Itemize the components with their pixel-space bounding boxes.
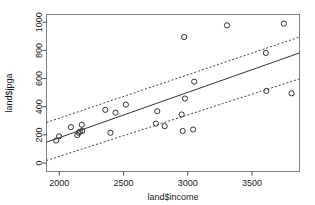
data-point xyxy=(224,23,229,28)
data-point xyxy=(192,79,197,84)
x-axis-tick-labels: 2000250030003500 xyxy=(49,178,262,188)
data-point xyxy=(113,110,118,115)
data-point xyxy=(191,127,196,132)
lower-confidence-band xyxy=(47,79,300,161)
x-tick-label: 3000 xyxy=(178,178,198,188)
y-axis-tick-labels: 02004006008001000 xyxy=(34,12,44,165)
y-tick-label: 1000 xyxy=(34,12,44,32)
y-axis-label: land$jpga xyxy=(4,73,14,112)
plot-frame xyxy=(47,15,300,172)
data-point xyxy=(182,34,187,39)
x-tick-label: 2500 xyxy=(114,178,134,188)
data-point xyxy=(180,128,185,133)
x-tick-label: 3500 xyxy=(242,178,262,188)
y-tick-label: 200 xyxy=(34,127,44,142)
y-tick-label: 800 xyxy=(34,43,44,58)
y-tick-label: 400 xyxy=(34,99,44,114)
y-tick-label: 600 xyxy=(34,71,44,86)
data-point xyxy=(162,124,167,129)
data-point xyxy=(103,107,108,112)
data-point xyxy=(153,121,158,126)
x-tick-label: 2000 xyxy=(49,178,69,188)
data-point xyxy=(123,102,128,107)
upper-confidence-band xyxy=(47,37,300,122)
x-axis-ticks xyxy=(59,172,252,176)
data-point xyxy=(289,91,294,96)
data-point xyxy=(263,50,268,55)
x-axis-label: land$income xyxy=(147,192,198,202)
y-tick-label: 0 xyxy=(34,161,44,166)
data-point xyxy=(108,130,113,135)
data-point xyxy=(179,112,184,117)
plot-canvas: 02004006008001000 2000250030003500 land$… xyxy=(0,0,315,205)
confidence-bands xyxy=(47,37,300,160)
data-points xyxy=(54,21,295,143)
data-point xyxy=(79,122,84,127)
data-point xyxy=(281,21,286,26)
data-point xyxy=(155,109,160,114)
data-point xyxy=(182,96,187,101)
scatter-plot-figure: 02004006008001000 2000250030003500 land$… xyxy=(0,0,315,205)
data-point xyxy=(68,125,73,130)
data-point xyxy=(264,88,269,93)
